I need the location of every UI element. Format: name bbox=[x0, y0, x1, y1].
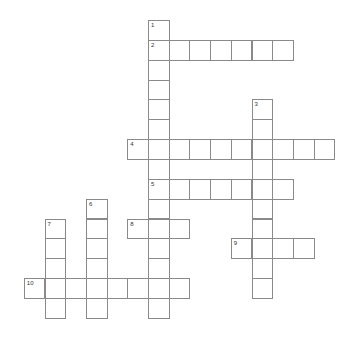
crossword-cell[interactable] bbox=[189, 139, 211, 160]
crossword-cell[interactable] bbox=[86, 238, 108, 259]
crossword-cell[interactable] bbox=[314, 139, 336, 160]
crossword-cell[interactable] bbox=[210, 139, 232, 160]
crossword-cell[interactable]: 10 bbox=[24, 278, 46, 299]
crossword-cell[interactable] bbox=[252, 258, 274, 279]
crossword-cell[interactable] bbox=[252, 119, 274, 140]
crossword-cell[interactable]: 2 bbox=[148, 40, 170, 61]
crossword-cell[interactable] bbox=[148, 219, 170, 240]
crossword-cell[interactable] bbox=[231, 179, 253, 200]
crossword-cell[interactable] bbox=[86, 258, 108, 279]
crossword-cell[interactable] bbox=[189, 179, 211, 200]
crossword-cell[interactable]: 5 bbox=[148, 179, 170, 200]
crossword-cell[interactable]: 7 bbox=[45, 219, 67, 240]
crossword-cell[interactable] bbox=[210, 179, 232, 200]
crossword-cell[interactable] bbox=[293, 238, 315, 259]
crossword-cell[interactable] bbox=[65, 278, 87, 299]
crossword-cell[interactable]: 9 bbox=[231, 238, 253, 259]
crossword-cell[interactable] bbox=[252, 179, 274, 200]
clue-number: 3 bbox=[255, 101, 258, 107]
crossword-cell[interactable] bbox=[252, 238, 274, 259]
clue-number: 5 bbox=[151, 181, 154, 187]
crossword-cell[interactable] bbox=[210, 40, 232, 61]
crossword-cell[interactable] bbox=[148, 258, 170, 279]
crossword-cell[interactable] bbox=[272, 40, 294, 61]
crossword-cell[interactable]: 4 bbox=[127, 139, 149, 160]
crossword-cell[interactable] bbox=[45, 258, 67, 279]
clue-number: 7 bbox=[48, 221, 51, 227]
crossword-cell[interactable]: 1 bbox=[148, 20, 170, 41]
crossword-cell[interactable] bbox=[45, 278, 67, 299]
clue-number: 6 bbox=[89, 201, 92, 207]
clue-number: 1 bbox=[151, 22, 154, 28]
crossword-cell[interactable] bbox=[107, 278, 129, 299]
crossword-cell[interactable] bbox=[252, 159, 274, 180]
crossword-grid: 12534678910 bbox=[0, 0, 356, 338]
crossword-cell[interactable] bbox=[169, 219, 191, 240]
crossword-cell[interactable] bbox=[169, 40, 191, 61]
crossword-cell[interactable] bbox=[86, 278, 108, 299]
crossword-cell[interactable] bbox=[148, 278, 170, 299]
crossword-cell[interactable]: 6 bbox=[86, 199, 108, 220]
crossword-cell[interactable] bbox=[127, 278, 149, 299]
crossword-cell[interactable] bbox=[272, 179, 294, 200]
crossword-cell[interactable] bbox=[86, 219, 108, 240]
crossword-cell[interactable] bbox=[148, 298, 170, 319]
crossword-cell[interactable]: 3 bbox=[252, 99, 274, 120]
crossword-cell[interactable] bbox=[148, 139, 170, 160]
crossword-cell[interactable] bbox=[272, 139, 294, 160]
crossword-cell[interactable] bbox=[148, 119, 170, 140]
crossword-cell[interactable] bbox=[45, 238, 67, 259]
crossword-cell[interactable] bbox=[252, 199, 274, 220]
crossword-cell[interactable] bbox=[148, 60, 170, 81]
crossword-cell[interactable] bbox=[272, 238, 294, 259]
crossword-cell[interactable]: 8 bbox=[127, 219, 149, 240]
crossword-cell[interactable] bbox=[169, 278, 191, 299]
crossword-cell[interactable] bbox=[169, 139, 191, 160]
crossword-cell[interactable] bbox=[45, 298, 67, 319]
crossword-cell[interactable] bbox=[148, 80, 170, 101]
crossword-cell[interactable] bbox=[293, 139, 315, 160]
crossword-cell[interactable] bbox=[189, 40, 211, 61]
clue-number: 2 bbox=[151, 42, 154, 48]
crossword-cell[interactable] bbox=[169, 179, 191, 200]
crossword-cell[interactable] bbox=[148, 159, 170, 180]
crossword-cell[interactable] bbox=[231, 40, 253, 61]
crossword-cell[interactable] bbox=[252, 139, 274, 160]
crossword-cell[interactable] bbox=[148, 199, 170, 220]
clue-number: 10 bbox=[27, 280, 34, 286]
clue-number: 9 bbox=[234, 240, 237, 246]
crossword-cell[interactable] bbox=[252, 40, 274, 61]
crossword-cell[interactable] bbox=[231, 139, 253, 160]
crossword-cell[interactable] bbox=[86, 298, 108, 319]
crossword-cell[interactable] bbox=[148, 238, 170, 259]
crossword-cell[interactable] bbox=[252, 278, 274, 299]
clue-number: 8 bbox=[130, 221, 133, 227]
crossword-cell[interactable] bbox=[252, 219, 274, 240]
clue-number: 4 bbox=[130, 141, 133, 147]
crossword-cell[interactable] bbox=[148, 99, 170, 120]
